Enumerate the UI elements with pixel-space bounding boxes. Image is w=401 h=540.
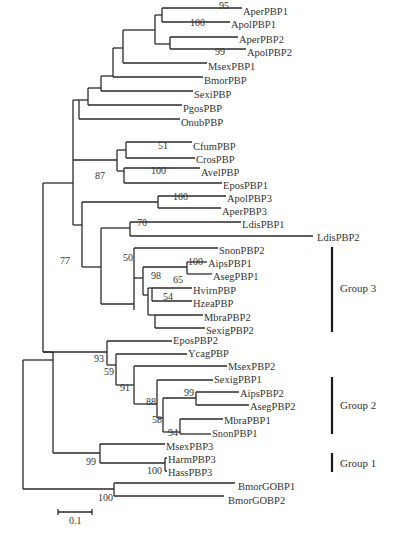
- leaf-label: HzeaPBP: [193, 298, 233, 309]
- bootstrap-value: 100: [188, 256, 203, 267]
- bootstrap-value: 54: [163, 291, 173, 302]
- bootstrap-value: 100: [151, 165, 166, 176]
- leaf-label: AperPBP3: [222, 206, 267, 217]
- leaf-label: SnonPBP2: [219, 245, 265, 256]
- bootstrap-value: 99: [184, 387, 194, 398]
- leaf-label: AperPBP2: [239, 34, 284, 45]
- bootstrap-value: 50: [123, 252, 133, 263]
- leaf-label: MsexPBP3: [166, 441, 213, 452]
- bootstrap-value: 77: [60, 255, 70, 266]
- leaf-label: ApolPBP2: [247, 47, 292, 58]
- leaf-label: AsegPBP1: [213, 271, 259, 282]
- leaf-label: ApolPBP1: [231, 19, 276, 30]
- leaf-label: SnonPBP1: [212, 428, 258, 439]
- leaf-label: AsegPBP2: [250, 401, 296, 412]
- bootstrap-value: 98: [151, 270, 161, 281]
- bootstrap-value: 99: [86, 456, 96, 467]
- group-brackets: Group 3Group 2Group 1: [332, 247, 377, 472]
- leaf-label: MsexPBP1: [208, 61, 255, 72]
- bootstrap-value: 94: [168, 427, 178, 438]
- bootstrap-value: 58: [152, 414, 162, 425]
- group-label: Group 3: [340, 282, 377, 294]
- leaf-label: AperPBP1: [243, 6, 288, 17]
- leaf-label: HarmPBP3: [168, 454, 216, 465]
- bootstrap-value: 70: [137, 217, 147, 228]
- leaf-label: LdisPBP1: [242, 219, 285, 230]
- bootstrap-value: 65: [173, 274, 183, 285]
- leaf-label: SexigPBP1: [214, 374, 262, 385]
- leaf-label: SexiPBP: [194, 89, 232, 100]
- group-label: Group 2: [340, 399, 376, 411]
- leaf-label: AvelPBP: [201, 167, 239, 178]
- bootstrap-value: 99: [215, 46, 225, 57]
- phylogenetic-tree: AperPBP1ApolPBP1AperPBP2ApolPBP2MsexPBP1…: [0, 0, 401, 540]
- leaf-label: MbraPBP1: [224, 415, 271, 426]
- leaf-label: YcagPBP: [188, 348, 229, 359]
- bootstrap-value: 100: [173, 191, 188, 202]
- group-label: Group 1: [340, 457, 376, 469]
- leaf-label: EposPBP2: [173, 335, 218, 346]
- leaf-label: AipsPBP2: [240, 388, 284, 399]
- bootstrap-value: 88: [146, 396, 156, 407]
- leaf-label: EposPBP1: [223, 180, 268, 191]
- bootstrap-value: 91: [120, 382, 130, 393]
- leaf-label: HassPBP3: [168, 467, 212, 478]
- bootstrap-value: 87: [95, 170, 105, 181]
- bootstrap-value: 100: [98, 492, 113, 503]
- leaf-label: HvirnPBP: [193, 285, 236, 296]
- leaf-label: AipsPBP1: [208, 258, 252, 269]
- leaf-label: BmorGOBP2: [228, 495, 285, 506]
- leaf-label: PgosPBP: [183, 103, 222, 114]
- scale-bar: 0.1: [58, 509, 92, 526]
- bootstrap-value: 93: [94, 353, 104, 364]
- leaf-label: BmorGOBP1: [238, 481, 295, 492]
- bootstrap-value: 100: [147, 465, 162, 476]
- bootstrap-value: 59: [104, 366, 114, 377]
- leaf-label: MbraPBP2: [204, 312, 251, 323]
- scale-bar-label: 0.1: [69, 515, 82, 526]
- leaf-label: OnubPBP: [181, 117, 223, 128]
- leaf-label: ApolPBP3: [227, 193, 272, 204]
- leaf-label: CfumPBP: [193, 141, 236, 152]
- bootstrap-value: 100: [190, 17, 205, 28]
- leaf-label: CrosPBP: [196, 154, 235, 165]
- bootstrap-value: 95: [219, 0, 229, 11]
- bootstrap-value: 51: [158, 140, 168, 151]
- leaf-label: BmorPBP: [204, 75, 247, 86]
- leaf-label: LdisPBP2: [317, 232, 360, 243]
- leaf-label: MsexPBP2: [228, 361, 275, 372]
